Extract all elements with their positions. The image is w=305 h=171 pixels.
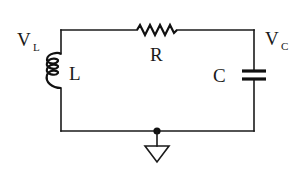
inductor-symbol [47, 53, 61, 88]
vc-node-label: V C [265, 28, 288, 52]
ground-icon [145, 131, 169, 162]
inductor-label: L [69, 63, 81, 84]
capacitor-symbol [242, 71, 266, 79]
vl-label-main: V [17, 29, 31, 50]
resistor-label: R [150, 44, 163, 65]
vc-label-main: V [265, 28, 279, 49]
rlc-circuit-diagram: R L V L C V C [0, 0, 305, 171]
resistor-symbol [137, 25, 177, 35]
vl-node-label: V L [17, 29, 40, 53]
vl-label-sub: L [33, 41, 40, 53]
capacitor-label: C [213, 65, 226, 86]
vc-label-sub: C [281, 40, 288, 52]
